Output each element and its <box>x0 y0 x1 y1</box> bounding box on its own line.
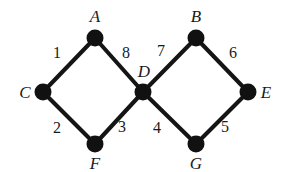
edge-a-d <box>95 38 143 92</box>
vertex-label-d: D <box>138 63 150 80</box>
vertex-dot-a <box>87 30 104 47</box>
vertex-label-g: G <box>190 155 202 172</box>
vertex-dot-c <box>35 84 52 101</box>
vertex-dot-f <box>87 136 104 153</box>
vertex-dot-g <box>188 136 205 153</box>
edge-c-a <box>43 38 95 92</box>
graph-figure: ABCDEFG12345678 <box>0 0 284 171</box>
vertex-label-f: F <box>90 155 100 172</box>
edge-weight-c-a: 1 <box>53 45 61 61</box>
edge-d-g <box>143 92 196 144</box>
edge-b-e <box>196 38 248 92</box>
edge-c-f <box>43 92 95 144</box>
vertex-label-e: E <box>261 84 271 101</box>
vertex-label-a: A <box>90 8 100 25</box>
edge-weight-d-g: 4 <box>153 120 161 136</box>
edge-d-b <box>143 38 196 92</box>
vertex-dot-d <box>135 84 152 101</box>
edge-weight-f-d: 3 <box>118 119 126 135</box>
vertex-label-c: C <box>19 84 30 101</box>
vertex-dot-e <box>240 84 257 101</box>
vertex-label-b: B <box>191 8 201 25</box>
edge-weight-a-d: 8 <box>122 45 130 61</box>
vertex-dot-b <box>188 30 205 47</box>
graph-canvas <box>0 0 284 171</box>
edge-weight-c-f: 2 <box>53 120 61 136</box>
edge-weight-d-b: 7 <box>157 43 165 59</box>
edge-weight-b-e: 6 <box>229 45 237 61</box>
edge-weight-g-e: 5 <box>221 119 229 135</box>
